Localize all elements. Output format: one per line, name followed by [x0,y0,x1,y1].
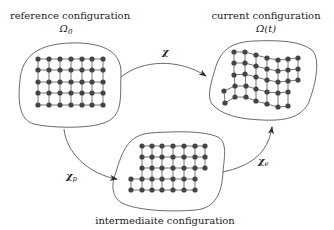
kinematics-diagram: reference configuration Ω0 current confi… [0,0,334,230]
lattice-node [46,67,51,72]
lattice-node [242,49,247,54]
lattice-node [264,89,269,94]
lattice-node [264,66,269,71]
lattice-node [170,165,175,170]
lattice-node [295,77,300,82]
lattice-node [79,67,84,72]
lattice-node [35,90,40,95]
lattice-node [68,79,73,84]
lattice-node [242,60,247,65]
lattice-node [159,154,164,159]
intermediate-configuration-label: intermediaite configuration [95,215,235,226]
lattice-node [231,60,236,65]
lattice-node [139,165,144,170]
lattice-node [149,176,154,181]
chi-mapping-arrow [121,63,206,77]
lattice-node [170,154,175,159]
lattice-node [242,71,247,76]
lattice-node [170,187,175,192]
lattice-node [35,79,40,84]
lattice-node [275,104,280,109]
lattice-node [295,66,300,71]
lattice-node [57,90,62,95]
lattice-node [57,79,62,84]
lattice-node [181,154,186,159]
lattice-node [79,79,84,84]
lattice-node [139,154,144,159]
lattice-node [243,94,248,99]
lattice-node [68,67,73,72]
lattice-node [46,102,51,107]
lattice-node [231,72,236,77]
lattice-node [35,102,40,107]
lattice-node [128,176,133,181]
omega-0-symbol: Ω0 [59,23,73,36]
lattice-node [275,90,280,95]
lattice-node [159,143,164,148]
lattice-node [128,187,133,192]
current-configuration-region [209,41,316,120]
lattice-node [222,100,227,105]
lattice-node [79,90,84,95]
lattice-node [275,79,280,84]
lattice-node [57,67,62,72]
lattice-node [68,56,73,61]
lattice-node [181,165,186,170]
lattice-node [285,67,290,72]
lattice-node [89,79,94,84]
current-configuration-label: current configuration [211,10,321,21]
lattice-node [35,67,40,72]
lattice-node [253,63,258,68]
lattice-node [192,154,197,159]
lattice-node [159,176,164,181]
reference-configuration-label: reference configuration [10,10,131,21]
lattice-node [192,176,197,181]
lattice-node [170,143,175,148]
lattice-node [181,187,186,192]
lattice-node [181,176,186,181]
lattice-node [100,67,105,72]
intermediate-lattice-grid [128,143,207,192]
lattice-node [100,79,105,84]
lattice-node [149,154,154,159]
lattice-node [285,56,290,61]
lattice-node [243,83,248,88]
lattice-node [68,90,73,95]
lattice-node [285,89,290,94]
lattice-node [57,102,62,107]
lattice-node [89,102,94,107]
lattice-node [192,143,197,148]
lattice-node [285,78,290,83]
lattice-node [89,90,94,95]
lattice-node [89,56,94,61]
lattice-node [232,83,237,88]
omega-t-symbol: Ω(t) [255,23,276,34]
reference-configuration-region [19,43,121,127]
lattice-node [253,52,258,57]
lattice-node [57,56,62,61]
lattice-node [253,98,258,103]
lattice-node [139,176,144,181]
current-lattice-grid [221,49,300,109]
chi-p-label: χp [65,170,78,183]
lattice-node [232,94,237,99]
reference-lattice-grid [35,56,105,107]
lattice-node [275,68,280,73]
lattice-node [100,90,105,95]
lattice-node [192,187,197,192]
lattice-node [192,165,197,170]
lattice-node [68,102,73,107]
lattice-node [139,143,144,148]
lattice-node [264,77,269,82]
lattice-node [221,88,226,93]
lattice-node [79,56,84,61]
lattice-node [89,67,94,72]
lattice-node [202,143,207,148]
lattice-node [264,101,269,106]
lattice-node [295,55,300,60]
lattice-node [149,187,154,192]
lattice-node [275,57,280,62]
lattice-node [149,143,154,148]
lattice-node [253,74,258,79]
lattice-node [285,103,290,108]
